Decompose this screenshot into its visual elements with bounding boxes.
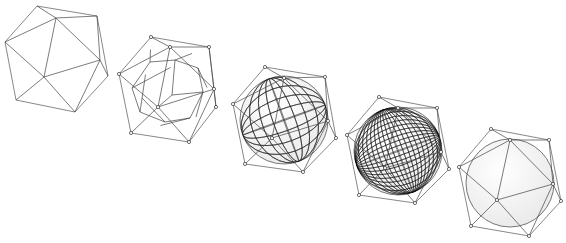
control-vertex [559, 199, 562, 202]
control-vertex [527, 234, 530, 237]
control-vertex [282, 76, 285, 79]
control-vertex [326, 119, 329, 122]
control-vertex [413, 201, 416, 204]
control-vertex [447, 167, 450, 170]
control-vertex [489, 127, 492, 130]
control-vertex [547, 138, 550, 141]
control-vertex [323, 75, 326, 78]
control-vertex [149, 35, 152, 38]
control-vertex [270, 136, 273, 139]
control-vertex [212, 87, 215, 90]
sphere-surface [354, 107, 442, 195]
control-vertex [129, 131, 132, 134]
stage-subdivision-level-3 [343, 95, 452, 205]
control-vertex [383, 166, 386, 169]
subdivision-diagram [0, 0, 566, 243]
control-vertex [214, 105, 217, 108]
control-vertex [435, 106, 438, 109]
cage-outline [119, 37, 216, 142]
control-vertex [396, 106, 399, 109]
control-vertex [187, 140, 190, 143]
control-vertex [495, 198, 498, 201]
stage-icosahedron [5, 6, 108, 112]
control-vertex [551, 182, 554, 185]
sphere-surface [466, 139, 554, 227]
control-vertex [357, 193, 360, 196]
control-vertex [439, 150, 442, 153]
stage-subdivision-level-2 [231, 65, 337, 173]
control-vertex [117, 72, 120, 75]
control-vertex [334, 136, 337, 139]
control-vertex [508, 138, 511, 141]
control-vertex [207, 45, 210, 48]
control-vertex [263, 65, 266, 68]
control-vertex [457, 165, 460, 168]
control-vertex [301, 170, 304, 173]
control-vertex [156, 105, 159, 108]
control-vertex [231, 102, 234, 105]
control-vertex [168, 45, 171, 48]
control-vertex [345, 133, 348, 136]
control-vertex [243, 162, 246, 165]
stage-subdivision-level-1 [117, 35, 217, 143]
control-vertex [377, 95, 380, 98]
stage-limit-surface [457, 127, 562, 237]
control-vertex [469, 224, 472, 227]
cage-edges [5, 6, 108, 112]
